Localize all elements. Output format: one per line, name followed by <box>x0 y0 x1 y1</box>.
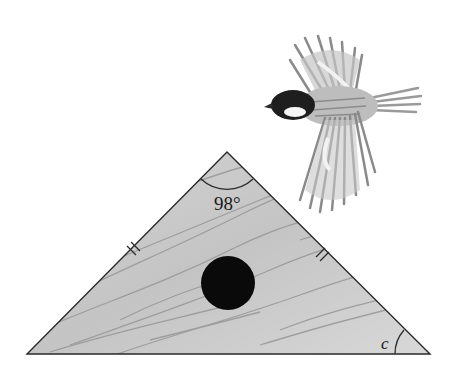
base-angle-label: c <box>381 334 389 354</box>
triangle-panel <box>27 152 440 360</box>
apex-angle-label: 98° <box>214 193 241 215</box>
bird-icon <box>264 36 421 212</box>
entrance-hole <box>201 256 255 310</box>
